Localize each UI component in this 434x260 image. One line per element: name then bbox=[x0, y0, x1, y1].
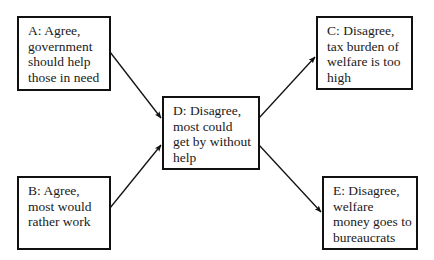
edge-a-to-d-arrow bbox=[110, 52, 161, 118]
node-a-line-3: should help bbox=[28, 54, 103, 70]
node-d-line-1: D: Disagree, bbox=[173, 103, 252, 119]
node-d-line-3: get by without bbox=[173, 134, 252, 150]
node-d-line-2: most could bbox=[173, 119, 252, 135]
node-e-line-4: bureaucrats bbox=[333, 230, 410, 246]
node-b-line-2: most would bbox=[28, 199, 103, 215]
node-e-line-1: E: Disagree, bbox=[333, 183, 410, 199]
edge-d-to-e-arrow bbox=[259, 145, 321, 212]
node-c: C: Disagree, tax burden of welfare is to… bbox=[316, 16, 413, 90]
edge-d-to-c-arrow bbox=[259, 57, 315, 118]
node-a: A: Agree, government should help those i… bbox=[17, 16, 111, 91]
node-b-line-1: B: Agree, bbox=[28, 183, 103, 199]
node-c-line-3: welfare is too bbox=[327, 54, 405, 70]
node-c-line-4: high bbox=[327, 70, 405, 86]
node-e-line-2: welfare bbox=[333, 199, 410, 215]
node-a-line-2: government bbox=[28, 39, 103, 55]
node-c-line-1: C: Disagree, bbox=[327, 23, 405, 39]
diagram-canvas: A: Agree, government should help those i… bbox=[0, 0, 434, 260]
node-b-line-3: rather work bbox=[28, 214, 103, 230]
node-b: B: Agree, most would rather work bbox=[17, 176, 111, 250]
node-d-line-4: help bbox=[173, 150, 252, 166]
node-e: E: Disagree, welfare money goes to burea… bbox=[322, 176, 418, 250]
node-d: D: Disagree, most could get by without h… bbox=[162, 96, 260, 170]
node-c-line-2: tax burden of bbox=[327, 39, 405, 55]
node-a-line-1: A: Agree, bbox=[28, 23, 103, 39]
node-e-line-3: money goes to bbox=[333, 214, 410, 230]
edge-b-to-d-arrow bbox=[110, 145, 161, 208]
node-a-line-4: those in need bbox=[28, 70, 103, 86]
